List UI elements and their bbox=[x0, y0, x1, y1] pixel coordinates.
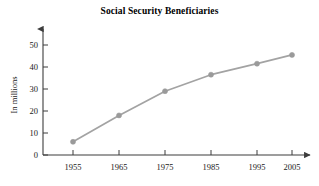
y-tick-label-10: 10 bbox=[30, 128, 39, 138]
data-point-markers bbox=[71, 52, 295, 144]
data-point-1955 bbox=[71, 139, 76, 144]
y-tick-label-50: 50 bbox=[30, 40, 39, 50]
chart-figure: Social Security Beneficiaries 0 10 bbox=[0, 0, 319, 186]
y-axis-ticks bbox=[43, 45, 48, 155]
x-tick-label-1975: 1975 bbox=[157, 162, 174, 172]
x-tick-label-1985: 1985 bbox=[203, 162, 220, 172]
y-tick-label-20: 20 bbox=[30, 106, 39, 116]
data-point-1985 bbox=[209, 72, 214, 77]
y-axis-tick-labels: 0 10 20 30 40 50 bbox=[30, 40, 39, 160]
data-series-line bbox=[73, 55, 292, 142]
y-axis-title: In millions bbox=[9, 76, 19, 113]
y-tick-label-0: 0 bbox=[34, 150, 38, 160]
y-tick-label-30: 30 bbox=[30, 84, 39, 94]
y-tick-label-40: 40 bbox=[30, 62, 39, 72]
line-chart-plot: 0 10 20 30 40 50 In millions 1955 1965 1… bbox=[0, 0, 319, 186]
x-tick-label-1995: 1995 bbox=[249, 162, 266, 172]
data-point-1965 bbox=[117, 113, 122, 118]
x-tick-label-2005: 2005 bbox=[284, 162, 301, 172]
x-tick-label-1955: 1955 bbox=[65, 162, 82, 172]
data-point-2005 bbox=[290, 52, 295, 57]
x-axis-ticks bbox=[73, 150, 292, 155]
data-point-1995 bbox=[255, 61, 260, 66]
x-axis-tick-labels: 1955 1965 1975 1985 1995 2005 bbox=[65, 162, 301, 172]
x-tick-label-1965: 1965 bbox=[111, 162, 128, 172]
data-point-1975 bbox=[163, 89, 168, 94]
